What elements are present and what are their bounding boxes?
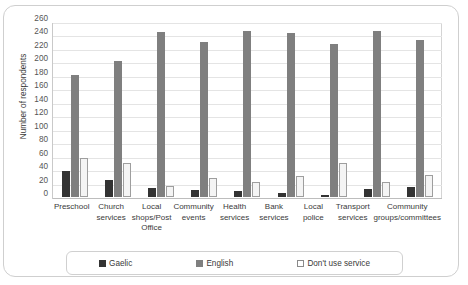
legend-label: Gaelic xyxy=(109,259,132,268)
legend-label: English xyxy=(206,259,233,268)
x-axis-label: Church services xyxy=(91,202,130,234)
bar[interactable] xyxy=(416,40,424,197)
y-tick-label: 80 xyxy=(22,136,48,144)
x-axis-label: Local police xyxy=(294,202,333,234)
bar[interactable] xyxy=(278,193,286,197)
bar[interactable] xyxy=(105,180,113,198)
bar-group xyxy=(139,22,182,197)
legend-swatch-icon xyxy=(99,260,106,267)
legend-swatch-icon xyxy=(196,260,203,267)
y-tick-label: 120 xyxy=(22,109,48,117)
x-axis-labels: PreschoolChurch servicesLocal shops/Post… xyxy=(52,202,442,234)
bar-group xyxy=(269,22,312,197)
bar[interactable] xyxy=(321,195,329,197)
bar[interactable] xyxy=(339,163,347,197)
plot-area xyxy=(52,23,442,199)
bar[interactable] xyxy=(166,186,174,197)
x-axis-label: Local shops/Post Office xyxy=(131,202,173,234)
x-axis-label: Bank services xyxy=(254,202,293,234)
x-axis-label: Community events xyxy=(172,202,214,234)
bar[interactable] xyxy=(234,191,242,197)
bar[interactable] xyxy=(123,163,131,197)
bar-group xyxy=(399,22,442,197)
bar[interactable] xyxy=(209,178,217,197)
bar[interactable] xyxy=(71,75,79,197)
bar[interactable] xyxy=(407,187,415,197)
legend-label: Don't use service xyxy=(307,259,370,268)
bar[interactable] xyxy=(287,33,295,197)
y-tick-label: 240 xyxy=(22,28,48,36)
y-tick-label: 220 xyxy=(22,42,48,50)
bar[interactable] xyxy=(157,32,165,197)
bar[interactable] xyxy=(296,176,304,197)
bar[interactable] xyxy=(148,188,156,197)
bar[interactable] xyxy=(252,182,260,197)
chart-legend: GaelicEnglishDon't use service xyxy=(66,251,403,275)
bar-group xyxy=(53,22,96,197)
y-tick-label: 180 xyxy=(22,69,48,77)
x-axis-label: Transport services xyxy=(333,202,372,234)
bar[interactable] xyxy=(364,189,372,197)
y-tick-label: 260 xyxy=(22,15,48,23)
bar-group xyxy=(96,22,139,197)
bar[interactable] xyxy=(382,182,390,197)
x-axis-label: Health services xyxy=(215,202,254,234)
gridline xyxy=(53,198,442,199)
x-axis-label: Community groups/committees xyxy=(372,202,442,234)
bar-group xyxy=(312,22,355,197)
bar-group xyxy=(226,22,269,197)
y-tick-label: 200 xyxy=(22,55,48,63)
y-tick-label: 0 xyxy=(22,190,48,198)
legend-item[interactable]: Gaelic xyxy=(99,259,132,268)
y-tick-label: 20 xyxy=(22,177,48,185)
y-tick-label: 100 xyxy=(22,123,48,131)
y-tick-label: 140 xyxy=(22,96,48,104)
y-axis-tick-labels: 260240220200180160140120100806040200 xyxy=(22,19,48,199)
bar[interactable] xyxy=(62,171,70,197)
bar[interactable] xyxy=(114,61,122,197)
legend-item[interactable]: English xyxy=(196,259,233,268)
legend-item[interactable]: Don't use service xyxy=(297,259,370,268)
bar[interactable] xyxy=(425,175,433,197)
bar[interactable] xyxy=(243,31,251,197)
bar-groups xyxy=(53,22,442,197)
bar[interactable] xyxy=(330,44,338,197)
bar[interactable] xyxy=(191,190,199,197)
y-tick-label: 60 xyxy=(22,150,48,158)
bar-group xyxy=(356,22,399,197)
bar[interactable] xyxy=(80,158,88,197)
y-tick-label: 160 xyxy=(22,82,48,90)
bar-group xyxy=(183,22,226,197)
legend-swatch-icon xyxy=(297,260,304,267)
x-axis-label: Preschool xyxy=(52,202,91,234)
bar[interactable] xyxy=(373,31,381,197)
bar-chart: Number of respondents 260240220200180160… xyxy=(0,0,468,285)
y-tick-label: 40 xyxy=(22,163,48,171)
bar[interactable] xyxy=(200,42,208,197)
